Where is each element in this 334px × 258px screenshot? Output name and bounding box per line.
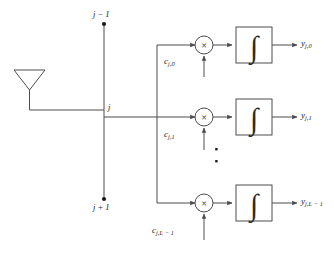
branch-2-multiply-icon: ×	[201, 198, 207, 209]
branch-2-coefficient-label: cj,L − 1	[152, 226, 174, 235]
branch-1-coefficient-label: cj,1	[164, 130, 175, 139]
branch-1-multiply-icon: ×	[201, 112, 207, 123]
branch-2-integral-icon: ∫	[248, 188, 260, 224]
tap-node-top-label: j − 1	[93, 10, 110, 19]
diagram-canvas: × × × ∫ ∫ ∫ j − 1 j j + 1 cj,0 cj,1 cj,L…	[0, 0, 334, 258]
center-tap-label: j	[108, 103, 110, 112]
branch-0-multiply-icon: ×	[201, 40, 207, 51]
branch-1-integral-icon: ∫	[248, 102, 260, 138]
branch-0-integral-icon: ∫	[248, 30, 260, 66]
out-1-sub: j,1	[305, 114, 312, 121]
branch-1-output-label: yj,1	[301, 111, 312, 120]
tap-node-bottom	[102, 197, 106, 201]
coef-0-sub: j,0	[168, 60, 175, 67]
vertical-ellipsis-icon	[215, 148, 217, 162]
coef-1-sub: j,1	[168, 133, 175, 140]
out-0-sub: j,0	[305, 42, 312, 49]
branch-0-coefficient-label: cj,0	[164, 57, 175, 66]
antenna-icon	[14, 70, 104, 110]
coef-2-sub: j,L − 1	[156, 229, 174, 236]
out-2-sub: j,L − 1	[305, 200, 323, 207]
tap-node-bottom-label: j + 1	[93, 203, 110, 212]
branch-2-output-label: yj,L − 1	[301, 197, 323, 206]
tap-node-top	[102, 22, 106, 26]
branch-0-output-label: yj,0	[301, 39, 312, 48]
